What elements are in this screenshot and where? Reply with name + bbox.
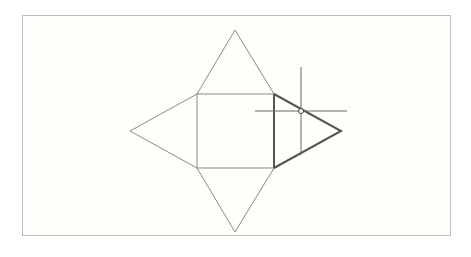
- drawing-canvas[interactable]: [0, 0, 471, 257]
- triangle-face-top[interactable]: [197, 30, 274, 94]
- base-square[interactable]: [197, 94, 274, 168]
- pyramid-net: [130, 30, 341, 232]
- crosshair-cursor-icon: [255, 67, 347, 155]
- triangle-face-right[interactable]: [274, 94, 341, 168]
- triangle-face-bottom[interactable]: [197, 168, 274, 232]
- triangle-face-left[interactable]: [130, 94, 197, 168]
